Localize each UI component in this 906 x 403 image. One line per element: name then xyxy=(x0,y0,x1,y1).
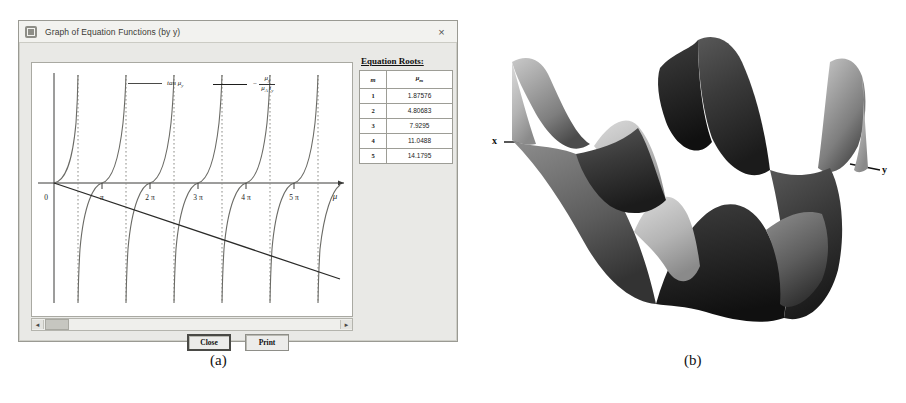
table-row: 2 4.80683 xyxy=(360,104,453,119)
legend-fraction-denominator: μA iy xyxy=(259,84,275,94)
roots-table-title: Equation Roots: xyxy=(361,56,455,66)
surface-peak-back-center xyxy=(698,37,770,175)
legend-minus-sign: − xyxy=(252,80,257,88)
root-value: 4.80683 xyxy=(387,104,453,119)
roots-table: m μm 1 1.87576 2 4.80683 xyxy=(359,70,453,164)
legend-label-tan: tan μy xyxy=(167,79,183,88)
x-axis-arrow xyxy=(338,181,344,186)
surface-y-axis-label: y xyxy=(882,164,887,175)
root-index: 1 xyxy=(360,89,387,104)
close-icon[interactable]: × xyxy=(434,24,449,39)
equation-plot-svg: 0 π 2 π 3 π 4 π 5 π μ xyxy=(32,63,350,314)
dialog-title: Graph of Equation Functions (by y) xyxy=(45,27,180,37)
legend-item-linear: − μy μA iy xyxy=(213,75,275,93)
x-tick-marks xyxy=(102,183,294,189)
x-tick-label-0: 0 xyxy=(44,193,48,202)
table-row: 3 7.9295 xyxy=(360,119,453,134)
scroll-right-arrow-icon[interactable]: ► xyxy=(340,320,352,329)
root-index: 2 xyxy=(360,104,387,119)
root-value: 14.1795 xyxy=(387,149,453,164)
legend-fraction-numerator: μy xyxy=(262,75,272,84)
legend-swatch-tan xyxy=(128,83,162,84)
x-tick-label-5pi: 5 π xyxy=(289,193,299,202)
dialog-client-area: 0 π 2 π 3 π 4 π 5 π μ tan μy xyxy=(25,48,451,335)
surface-plot-canvas: x y xyxy=(470,18,900,348)
x-axis-label: μ xyxy=(332,191,338,201)
root-index: 5 xyxy=(360,149,387,164)
table-row: 1 1.87576 xyxy=(360,89,453,104)
close-button[interactable]: Close xyxy=(187,334,231,351)
legend-swatch-linear xyxy=(213,84,247,85)
legend-item-tan: tan μy xyxy=(128,79,183,88)
x-tick-label-pi: π xyxy=(100,193,104,202)
table-row: 5 14.1795 xyxy=(360,149,453,164)
tan-curve-series xyxy=(54,75,340,303)
root-value: 1.87576 xyxy=(387,89,453,104)
figure-b-surface-plot: x y xyxy=(470,18,900,348)
graph-dialog-window: Graph of Equation Functions (by y) × xyxy=(18,20,458,342)
horizontal-scrollbar[interactable]: ◄ ► xyxy=(31,318,353,331)
scroll-left-arrow-icon[interactable]: ◄ xyxy=(32,320,44,329)
x-tick-label-2pi: 2 π xyxy=(145,193,155,202)
equation-roots-panel: Equation Roots: m μm 1 1.87576 xyxy=(359,56,455,164)
caption-a: (a) xyxy=(210,352,227,369)
caption-b: (b) xyxy=(684,352,702,369)
root-value: 7.9295 xyxy=(387,119,453,134)
dialog-titlebar[interactable]: Graph of Equation Functions (by y) × xyxy=(19,21,457,43)
dialog-button-row: Close Print xyxy=(25,334,451,351)
root-index: 3 xyxy=(360,119,387,134)
figure-a-dialog-screenshot: Graph of Equation Functions (by y) × xyxy=(18,20,458,342)
mode-shape-surface-svg xyxy=(470,18,900,348)
roots-col-header-mu: μm xyxy=(387,71,453,89)
x-tick-label-3pi: 3 π xyxy=(193,193,203,202)
window-icon xyxy=(25,26,37,38)
roots-col-header-m: m xyxy=(360,71,387,89)
equation-plot-panel: 0 π 2 π 3 π 4 π 5 π μ tan μy xyxy=(31,62,353,317)
table-row: 4 11.0488 xyxy=(360,134,453,149)
root-index: 4 xyxy=(360,134,387,149)
print-button[interactable]: Print xyxy=(245,334,289,351)
surface-x-axis-label: x xyxy=(492,135,497,146)
x-tick-labels: 0 π 2 π 3 π 4 π 5 π μ xyxy=(44,191,338,202)
roots-table-header-row: m μm xyxy=(360,71,453,89)
root-value: 11.0488 xyxy=(387,134,453,149)
scrollbar-thumb[interactable] xyxy=(45,319,69,330)
x-tick-label-4pi: 4 π xyxy=(241,193,251,202)
plot-legend: tan μy − μy μA iy xyxy=(128,69,348,99)
legend-label-fraction: μy μA iy xyxy=(259,75,275,93)
